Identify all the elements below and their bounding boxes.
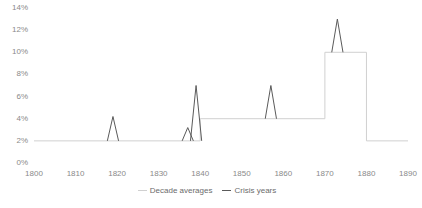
chart-legend: Decade averages Crisis years — [0, 186, 414, 195]
legend-item-decade-averages: Decade averages — [138, 186, 213, 195]
legend-swatch-decade-averages — [138, 190, 147, 192]
crisis-spike — [332, 19, 343, 52]
legend-item-crisis-years: Crisis years — [222, 186, 276, 195]
legend-label-decade-averages: Decade averages — [150, 186, 213, 195]
caption-strip — [0, 200, 414, 208]
legend-swatch-crisis-years — [222, 190, 231, 192]
crisis-spike — [107, 117, 118, 141]
crisis-spike — [265, 86, 276, 119]
legend-label-crisis-years: Crisis years — [234, 186, 276, 195]
series-crisis-years — [107, 19, 343, 141]
series-decade-averages — [34, 52, 408, 141]
